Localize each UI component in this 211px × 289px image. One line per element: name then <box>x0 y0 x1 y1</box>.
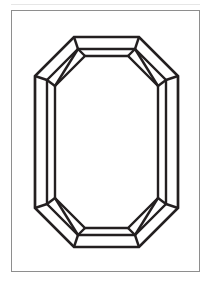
corner-facet-top-left <box>35 37 85 86</box>
emerald-cut-gemstone-diagram <box>12 11 201 273</box>
corner-facet-bottom-left <box>35 198 85 247</box>
table-facet <box>55 56 158 228</box>
corner-facet-bottom-right <box>128 198 178 247</box>
girdle-outline <box>35 37 178 247</box>
figure-root <box>0 0 211 289</box>
figure-caption <box>14 277 200 287</box>
top-rule-divider <box>11 4 200 5</box>
figure-frame <box>11 10 200 272</box>
corner-facet-top-right <box>128 37 178 86</box>
